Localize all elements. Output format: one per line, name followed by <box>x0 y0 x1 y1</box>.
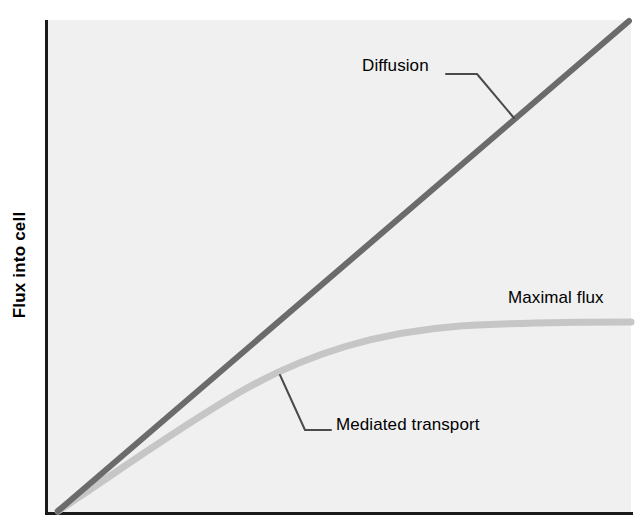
annotation-maximal-flux: Maximal flux <box>508 288 604 308</box>
diffusion-leader-line <box>446 74 514 118</box>
curve-overlay <box>0 0 641 529</box>
annotation-diffusion: Diffusion <box>362 56 429 76</box>
diffusion-line <box>58 21 629 511</box>
annotation-mediated-transport: Mediated transport <box>336 415 480 435</box>
flux-into-cell-figure: Flux into cell Diffusion Maximal flux Me… <box>0 0 641 529</box>
mediated-transport-leader-line <box>280 375 331 430</box>
